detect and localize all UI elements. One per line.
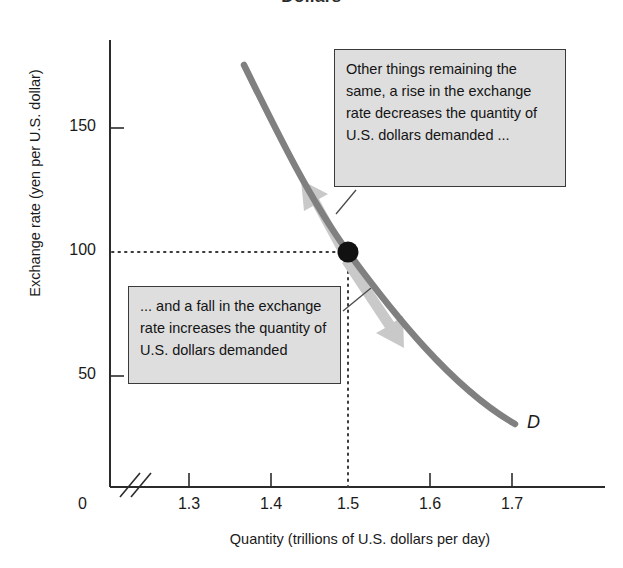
x-tick-label-1-7: 1.7 — [482, 495, 542, 513]
movement-arrow-down-icon — [342, 257, 404, 348]
y-tick-label-50: 50 — [38, 365, 96, 383]
equilibrium-point-marker — [338, 242, 359, 263]
x-axis-ticks — [189, 473, 512, 487]
callout-rise-in-exchange-rate: Other things remaining the same, a rise … — [334, 49, 566, 187]
x-tick-label-1-3: 1.3 — [159, 495, 219, 513]
y-tick-label-150: 150 — [38, 117, 96, 135]
callout-fall-in-exchange-rate: ... and a fall in the exchange rate incr… — [128, 286, 341, 384]
x-tick-label-1-5: 1.5 — [318, 495, 378, 513]
x-axis-break-icon — [120, 473, 151, 497]
x-tick-label-1-6: 1.6 — [400, 495, 460, 513]
callout-rise-leader-line — [336, 190, 356, 214]
demand-curve-label: D — [527, 412, 540, 433]
x-tick-label-1-4: 1.4 — [241, 495, 301, 513]
figure-canvas: Dollars — [0, 0, 623, 568]
x-tick-label-0: 0 — [78, 495, 87, 513]
x-axis-title: Quantity (trillions of U.S. dollars per … — [110, 531, 610, 547]
y-tick-label-100: 100 — [38, 241, 96, 259]
y-axis-title: Exchange rate (yen per U.S. dollar) — [27, 0, 43, 373]
